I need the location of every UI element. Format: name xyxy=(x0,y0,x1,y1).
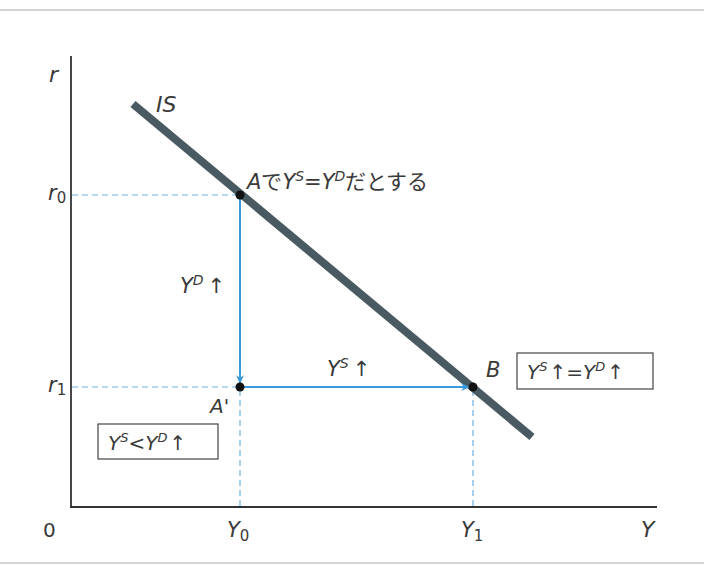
disequilibrium-box-text: YS<YD↑ xyxy=(108,430,186,455)
y0-label: Y0 xyxy=(227,518,249,545)
origin-label: 0 xyxy=(43,518,56,542)
r-axis-label: r xyxy=(49,62,60,87)
point-a-annotation: AでYS=YDだとする xyxy=(245,168,428,194)
point-a xyxy=(236,191,245,200)
r0-label: r0 xyxy=(48,181,66,207)
is-label: IS xyxy=(156,92,176,117)
point-a-prime xyxy=(236,383,245,392)
y-axis-label: Y xyxy=(641,517,656,542)
y1-label: Y1 xyxy=(461,518,483,545)
r1-label: r1 xyxy=(48,373,66,399)
yd-increase-label: YD↑ xyxy=(180,272,225,298)
point-b-label: B xyxy=(486,358,500,382)
point-a-prime-label: A' xyxy=(208,394,229,418)
ys-increase-label: YS↑ xyxy=(327,355,370,381)
point-b xyxy=(469,383,478,392)
is-curve-diagram: r Y 0 r0 r1 Y0 Y1 IS AでYS=YDだとする A' B YD… xyxy=(0,0,704,570)
